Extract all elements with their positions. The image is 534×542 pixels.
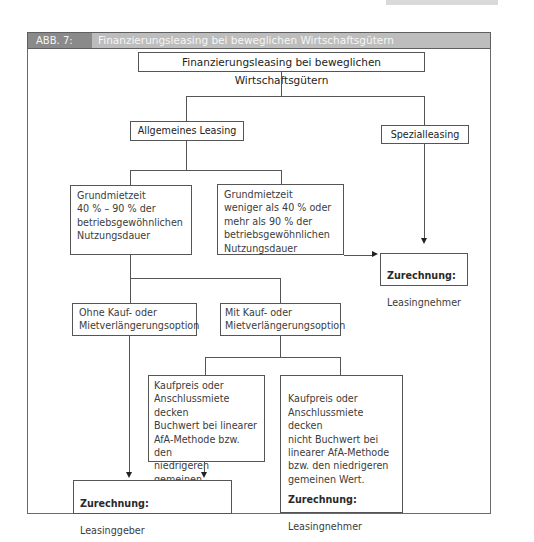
arrow-down-icon — [126, 472, 132, 478]
zurechnung-heading: Zurechnung: — [80, 498, 149, 509]
zurechnung-heading: Zurechnung: — [387, 270, 456, 281]
connector — [186, 96, 425, 97]
connector — [340, 357, 341, 376]
nicht-decken-text: Kaufpreis oder Anschlussmiete decken nic… — [288, 393, 389, 484]
zurechnung-value: Leasinggeber — [80, 525, 145, 536]
node-grundmietzeit-other: Grundmietzeit weniger als 40 % oder mehr… — [217, 184, 344, 255]
node-decken: Kaufpreis oder Anschlussmiete decken Buc… — [148, 375, 265, 462]
connector — [280, 336, 281, 357]
node-zurechnung-leasingnehmer-1: Zurechnung: Leasingnehmer — [380, 253, 468, 286]
connector — [205, 357, 340, 358]
zurechnung-value: Leasingnehmer — [387, 297, 461, 308]
connector — [130, 278, 281, 279]
connector — [424, 96, 425, 125]
zurechnung-heading: Zurechnung: — [288, 494, 357, 505]
node-ohne-option: Ohne Kauf- oder Mietverlängerungsoption — [72, 303, 197, 336]
figure-header: ABB. 7: Finanzierungsleasing bei bewegli… — [27, 32, 491, 49]
node-root: Finanzierungsleasing bei beweglichen Wir… — [138, 52, 425, 72]
node-zurechnung-leasinggeber: Zurechnung: Leasinggeber — [73, 480, 232, 514]
node-allgemeines-leasing: Allgemeines Leasing — [130, 121, 244, 141]
node-mit-option: Mit Kauf- oder Mietverlängerungsoption — [220, 303, 341, 336]
connector — [130, 255, 131, 304]
connector — [186, 141, 187, 170]
page-corner-tab — [386, 0, 498, 5]
connector — [130, 170, 131, 185]
connector — [129, 336, 130, 473]
zurechnung-value: Leasingnehmer — [288, 521, 362, 532]
connector — [344, 255, 372, 256]
node-nicht-decken: Kaufpreis oder Anschlussmiete decken nic… — [280, 375, 403, 513]
connector — [281, 72, 282, 96]
connector — [424, 144, 425, 238]
node-spezialleasing: Spezialleasing — [381, 125, 469, 144]
arrow-down-icon — [201, 472, 207, 478]
arrow-right-icon — [372, 251, 378, 257]
connector — [205, 357, 206, 376]
node-grundmietzeit-40-90: Grundmietzeit 40 % – 90 % der betriebsge… — [70, 185, 192, 255]
figure-title: Finanzierungsleasing bei beweglichen Wir… — [92, 33, 490, 48]
arrow-down-icon — [421, 238, 427, 244]
connector — [130, 170, 282, 171]
connector — [281, 170, 282, 185]
figure-label: ABB. 7: — [28, 33, 92, 48]
connector — [186, 96, 187, 121]
connector — [280, 278, 281, 304]
connector — [204, 462, 205, 472]
